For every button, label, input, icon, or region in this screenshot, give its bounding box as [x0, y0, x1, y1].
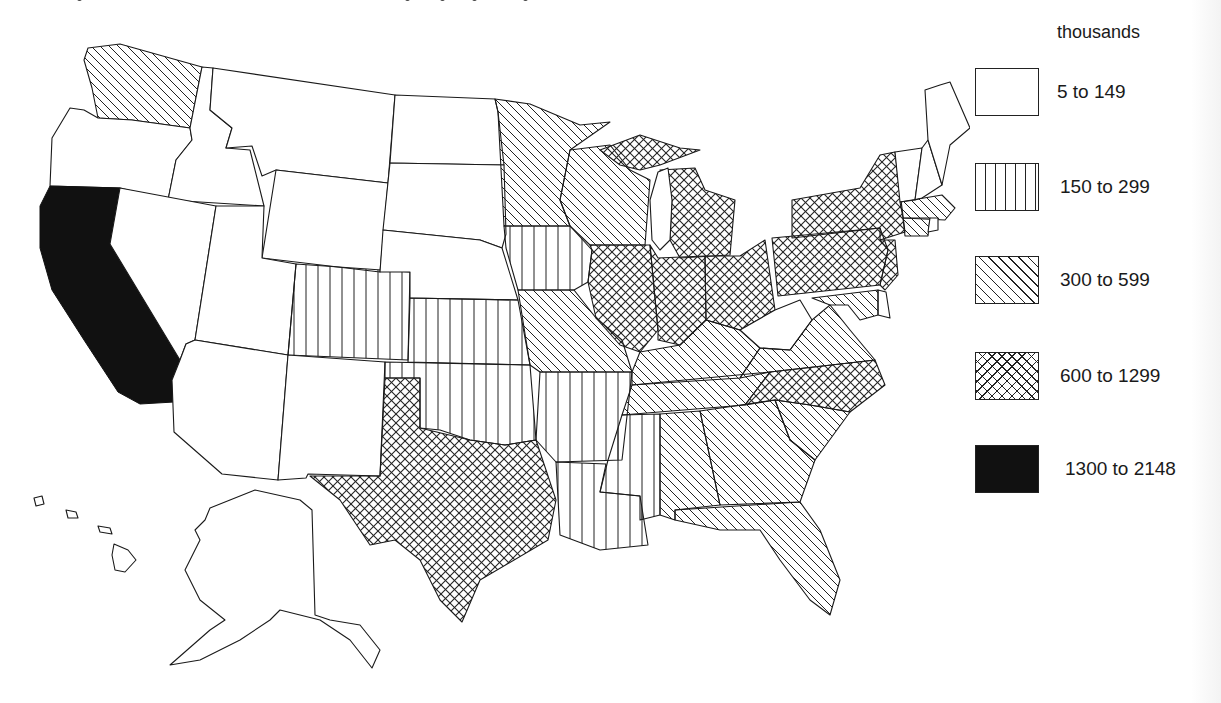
state-connecticut	[903, 218, 930, 236]
legend-item-300-to-599: 300 to 599	[975, 256, 1215, 306]
legend-item-600-to-1299: 600 to 1299	[975, 352, 1215, 402]
legend-swatch-solid	[975, 445, 1039, 493]
state-wyoming	[262, 170, 388, 272]
us-choropleth-map	[0, 0, 970, 703]
state-hawaii-kauai	[34, 496, 44, 506]
state-hawaii-oahu	[66, 510, 78, 518]
state-arizona	[172, 340, 288, 480]
state-hawaii-maui	[98, 526, 112, 534]
state-pennsylvania	[772, 228, 888, 296]
legend-label: 150 to 299	[1060, 176, 1150, 198]
state-florida	[675, 502, 840, 615]
legend-item-5-to-149: 5 to 149	[975, 68, 1215, 118]
state-iowa	[504, 226, 592, 290]
state-alaska	[170, 490, 380, 668]
legend-label: 1300 to 2148	[1065, 458, 1176, 480]
legend-swatch-crosshatch	[975, 352, 1039, 400]
state-kansas	[408, 298, 530, 365]
state-new-york	[792, 152, 905, 240]
state-north-dakota	[390, 95, 504, 165]
state-delaware	[878, 290, 890, 318]
state-washington	[84, 44, 202, 128]
legend-item-150-to-299: 150 to 299	[975, 163, 1215, 213]
state-hawaii-big-island	[112, 544, 136, 572]
lake-michigan	[650, 168, 672, 250]
legend-label: 300 to 599	[1060, 269, 1150, 291]
legend-label: 5 to 149	[1057, 81, 1126, 103]
legend-label: 600 to 1299	[1060, 365, 1160, 387]
legend-swatch-vertical-lines	[975, 163, 1039, 211]
legend-swatch-blank	[975, 68, 1039, 116]
state-rhode-island	[928, 218, 938, 232]
legend-unit-label: thousands	[1057, 22, 1140, 43]
legend-swatch-diagonal-lines	[975, 256, 1039, 304]
legend-item-1300-to-2148: 1300 to 2148	[975, 445, 1215, 495]
state-new-mexico	[278, 355, 385, 480]
state-colorado	[288, 264, 410, 360]
